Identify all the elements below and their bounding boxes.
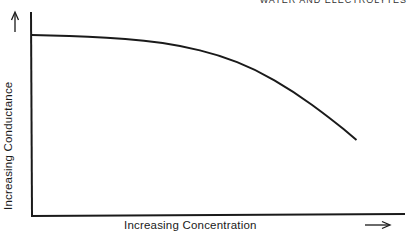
y-axis-arrow-icon [12,12,19,32]
y-axis-label: Increasing Conductance [2,82,14,210]
x-axis-arrow-icon [365,222,390,229]
y-axis [31,12,32,216]
x-axis [31,214,405,216]
x-axis-label: Increasing Concentration [124,219,257,231]
conductance-curve [32,35,357,140]
chart-plot-area [0,0,411,237]
